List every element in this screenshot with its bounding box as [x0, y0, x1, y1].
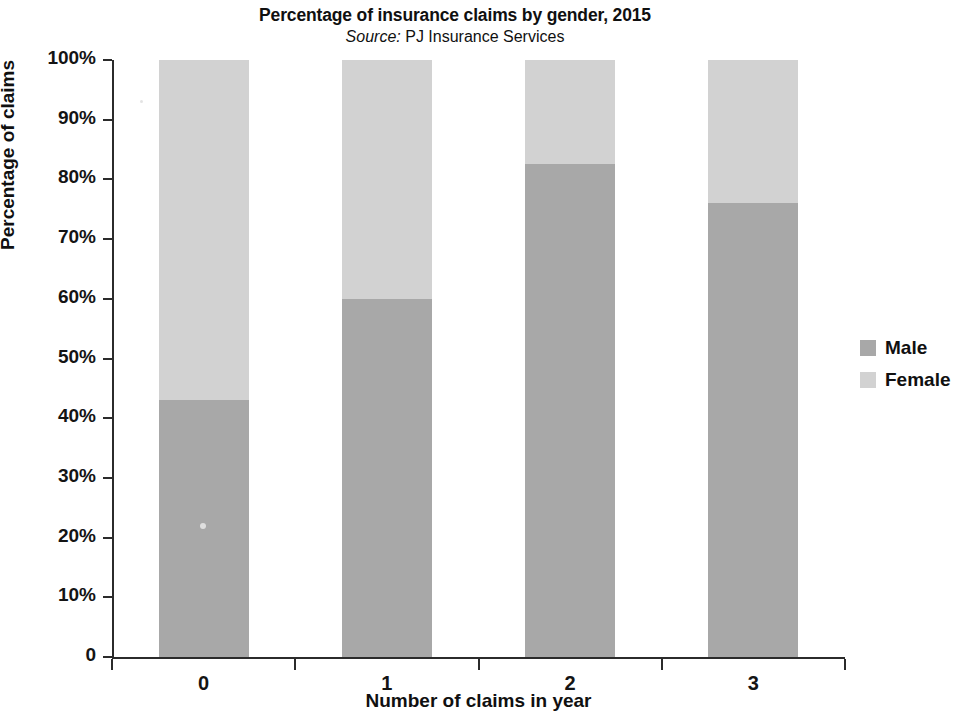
y-axis-tick-label: 20%: [0, 525, 96, 547]
bar-segment-male[interactable]: [342, 299, 432, 657]
legend-item-male[interactable]: Male: [860, 332, 970, 364]
legend-swatch-icon: [860, 372, 876, 388]
x-axis-tick: [111, 659, 113, 670]
y-axis-tick: [103, 238, 112, 240]
y-axis-tick: [103, 596, 112, 598]
legend-item-female[interactable]: Female: [860, 364, 970, 396]
chart-legend: MaleFemale: [860, 332, 970, 396]
y-axis-tick: [103, 358, 112, 360]
y-axis-tick: [103, 59, 112, 61]
y-axis-tick-label: 40%: [0, 405, 96, 427]
bar-stack[interactable]: [525, 60, 615, 657]
y-axis-tick: [103, 477, 112, 479]
legend-swatch-icon: [860, 340, 876, 356]
y-axis-tick-label: 0: [0, 644, 96, 666]
y-axis-tick: [103, 537, 112, 539]
bar-segment-female[interactable]: [342, 60, 432, 299]
x-axis-tick: [294, 659, 296, 670]
x-axis-title: Number of claims in year: [112, 690, 845, 712]
scan-speck: [200, 523, 206, 529]
y-axis-tick: [103, 656, 112, 658]
chart-subtitle-source-word: Source:: [346, 28, 401, 45]
y-axis-tick: [103, 178, 112, 180]
y-axis-line: [112, 60, 114, 657]
legend-item-label: Female: [885, 369, 950, 391]
scan-speck: [140, 100, 143, 103]
bar-segment-female[interactable]: [525, 60, 615, 164]
bar-stack[interactable]: [342, 60, 432, 657]
y-axis-tick-label: 50%: [0, 346, 96, 368]
chart-subtitle: Source: PJ Insurance Services: [90, 26, 820, 47]
x-axis-tick: [661, 659, 663, 670]
y-axis-tick-label: 10%: [0, 584, 96, 606]
bar-segment-male[interactable]: [525, 164, 615, 657]
legend-item-label: Male: [885, 337, 927, 359]
y-axis-tick: [103, 417, 112, 419]
y-axis-tick-label: 60%: [0, 286, 96, 308]
chart-figure: Percentage of insurance claims by gender…: [0, 0, 971, 727]
bar-segment-female[interactable]: [159, 60, 249, 400]
y-axis-title: Percentage of claims: [0, 60, 19, 250]
chart-subtitle-text: PJ Insurance Services: [405, 28, 564, 45]
bar-segment-female[interactable]: [708, 60, 798, 203]
x-axis-tick: [478, 659, 480, 670]
plot-area: 0123: [112, 60, 845, 657]
y-axis-tick: [103, 119, 112, 121]
bar-stack[interactable]: [159, 60, 249, 657]
y-axis-tick-label: 30%: [0, 465, 96, 487]
bar-stack[interactable]: [708, 60, 798, 657]
chart-header: Percentage of insurance claims by gender…: [90, 4, 820, 47]
y-axis-tick: [103, 298, 112, 300]
x-axis-tick: [844, 659, 846, 670]
chart-title: Percentage of insurance claims by gender…: [90, 4, 820, 26]
bar-segment-male[interactable]: [708, 203, 798, 657]
